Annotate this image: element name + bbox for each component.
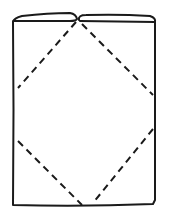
folded-paper-drawing	[0, 0, 171, 219]
fold-line-bottom-right	[93, 129, 153, 203]
top-left-flap	[13, 13, 77, 22]
outer-rectangle	[13, 22, 155, 206]
top-right-flap	[79, 15, 155, 22]
fold-line-bottom-left	[18, 141, 82, 205]
fold-line-top-left	[18, 22, 76, 88]
fold-line-top-right	[82, 24, 153, 95]
dashed-fold-lines	[18, 22, 153, 205]
diagram-canvas: Folded paper with dashed diamond fold li…	[0, 0, 171, 219]
